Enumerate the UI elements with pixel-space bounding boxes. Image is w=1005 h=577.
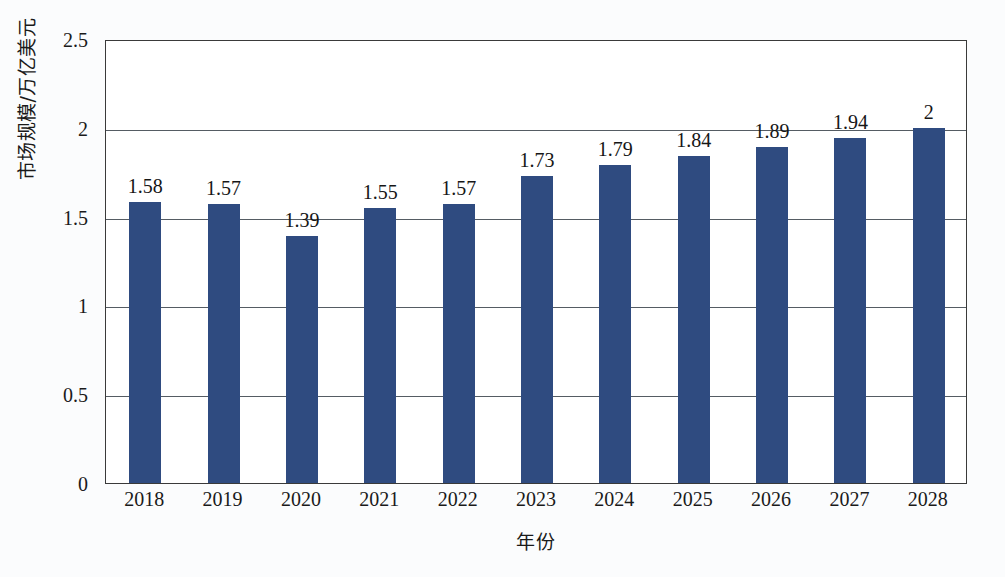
- bar-value-label: 1.79: [598, 138, 633, 161]
- x-axis-tick-labels: 2018201920202021202220232024202520262027…: [105, 488, 967, 518]
- x-tick-label: 2023: [516, 488, 556, 511]
- y-axis-tick-labels: 00.511.522.5: [40, 40, 98, 484]
- x-tick-label: 2026: [751, 488, 791, 511]
- bar-value-label: 2: [924, 101, 934, 124]
- bar[interactable]: [678, 156, 710, 483]
- bar-slot: 1.94: [811, 41, 889, 483]
- x-tick-label: 2025: [673, 488, 713, 511]
- bar-value-label: 1.57: [441, 177, 476, 200]
- bar-slot: 1.39: [263, 41, 341, 483]
- bar-value-label: 1.89: [755, 120, 790, 143]
- x-tick-label: 2022: [438, 488, 478, 511]
- bar-slot: 1.55: [341, 41, 419, 483]
- bar-slot: 1.57: [419, 41, 497, 483]
- x-tick-label: 2027: [829, 488, 869, 511]
- x-tick-label: 2018: [124, 488, 164, 511]
- bars-layer: 1.581.571.391.551.571.731.791.841.891.94…: [106, 41, 966, 483]
- bar-slot: 1.89: [733, 41, 811, 483]
- y-tick-label: 2: [78, 117, 88, 140]
- bar-value-label: 1.39: [284, 209, 319, 232]
- bar-slot: 1.58: [106, 41, 184, 483]
- y-tick-label: 2.5: [63, 29, 88, 52]
- bar-slot: 1.79: [576, 41, 654, 483]
- bar[interactable]: [443, 204, 475, 483]
- bar[interactable]: [599, 165, 631, 483]
- bar[interactable]: [129, 202, 161, 483]
- bar-value-label: 1.73: [519, 149, 554, 172]
- bar-value-label: 1.57: [206, 177, 241, 200]
- bar-slot: 1.84: [655, 41, 733, 483]
- bar[interactable]: [834, 138, 866, 483]
- x-tick-label: 2020: [281, 488, 321, 511]
- x-axis-title: 年份: [105, 527, 967, 554]
- bar-slot: 1.57: [184, 41, 262, 483]
- bar-chart-figure: 市场规模/万亿美元 00.511.522.5 1.581.571.391.551…: [0, 0, 1005, 577]
- bar-slot: 1.73: [498, 41, 576, 483]
- y-tick-label: 0.5: [63, 384, 88, 407]
- bar[interactable]: [286, 236, 318, 483]
- y-tick-label: 1: [78, 295, 88, 318]
- x-tick-label: 2019: [203, 488, 243, 511]
- bar-value-label: 1.94: [833, 111, 868, 134]
- bar[interactable]: [208, 204, 240, 483]
- bar[interactable]: [364, 208, 396, 483]
- y-tick-label: 1.5: [63, 206, 88, 229]
- bar[interactable]: [756, 147, 788, 483]
- y-tick-label: 0: [78, 473, 88, 496]
- bar-value-label: 1.58: [128, 175, 163, 198]
- bar-value-label: 1.55: [363, 181, 398, 204]
- x-tick-label: 2021: [359, 488, 399, 511]
- x-tick-label: 2028: [908, 488, 948, 511]
- bar[interactable]: [913, 128, 945, 483]
- plot-area: 1.581.571.391.551.571.731.791.841.891.94…: [105, 40, 967, 484]
- bar-slot: 2: [890, 41, 968, 483]
- y-axis-title: 市场规模/万亿美元: [8, 0, 42, 214]
- bar[interactable]: [521, 176, 553, 483]
- bar-value-label: 1.84: [676, 129, 711, 152]
- x-tick-label: 2024: [594, 488, 634, 511]
